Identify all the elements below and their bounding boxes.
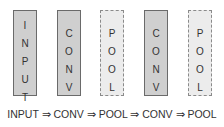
block-letter: L xyxy=(109,79,115,97)
block-letter: I xyxy=(24,17,27,35)
block-letter: O xyxy=(108,43,116,61)
block-letter: L xyxy=(197,79,203,97)
block-input: I N P U T xyxy=(13,10,37,96)
block-pool-1: P O O L xyxy=(100,10,124,96)
block-letter: O xyxy=(196,61,204,79)
block-letter: C xyxy=(152,25,159,43)
block-letter: P xyxy=(22,53,29,71)
block-conv-1: C O N V xyxy=(57,10,81,96)
block-letter: O xyxy=(65,43,73,61)
block-letter: T xyxy=(22,89,28,107)
block-letter: N xyxy=(65,61,72,79)
pipeline-caption: INPUT ⇒ CONV ⇒ POOL ⇒ CONV ⇒ POOL xyxy=(0,108,224,120)
block-letter: C xyxy=(65,25,72,43)
block-letter: O xyxy=(108,61,116,79)
block-letter: P xyxy=(197,25,204,43)
block-letter: O xyxy=(152,43,160,61)
block-letter: P xyxy=(109,25,116,43)
block-conv-2: C O N V xyxy=(144,10,168,96)
block-letter: V xyxy=(153,79,160,97)
block-letter: N xyxy=(21,35,28,53)
block-letter: N xyxy=(152,61,159,79)
block-pool-2: P O O L xyxy=(188,10,212,96)
block-letter: V xyxy=(66,79,73,97)
block-letter: O xyxy=(196,43,204,61)
block-letter: U xyxy=(21,71,28,89)
